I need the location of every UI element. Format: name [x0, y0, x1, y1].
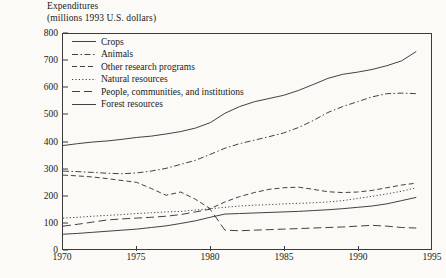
legend-label: Other research programs: [101, 62, 195, 72]
axis-title-line2: (millions 1993 U.S. dollars): [47, 13, 156, 23]
legend-line-icon: [72, 87, 96, 96]
legend-item: People, communities, and institutions: [72, 86, 244, 98]
legend-label: Forest resources: [101, 99, 163, 109]
legend-line-icon: [72, 100, 96, 109]
x-axis-labels: 197019751980198519901995: [62, 252, 432, 268]
legend-item: Animals: [72, 49, 244, 61]
y-tick-label: 700: [28, 55, 58, 65]
legend-label: Natural resources: [101, 74, 168, 84]
x-tick-label: 1970: [53, 252, 72, 262]
legend-item: Forest resources: [72, 99, 244, 111]
y-tick-label: 100: [28, 218, 58, 228]
legend-label: Crops: [101, 37, 124, 47]
chart-axis-title: Expenditures (millions 1993 U.S. dollars…: [47, 1, 156, 24]
x-tick-label: 1980: [201, 252, 220, 262]
y-tick-label: 500: [28, 109, 58, 119]
y-axis-labels: 0100200300400500600700800: [26, 33, 58, 250]
legend-label: Animals: [101, 49, 133, 59]
x-tick-mark: [358, 246, 359, 251]
x-tick-label: 1975: [127, 252, 146, 262]
x-tick-label: 1985: [275, 252, 294, 262]
legend-line-icon: [72, 62, 96, 71]
x-axis-ticks: [62, 244, 432, 251]
y-tick-label: 200: [28, 191, 58, 201]
legend-item: Natural resources: [72, 74, 244, 86]
chart-legend: CropsAnimalsOther research programsNatur…: [72, 36, 244, 110]
series-line: [63, 175, 416, 209]
series-line: [63, 209, 416, 231]
x-tick-mark: [136, 246, 137, 251]
legend-label: People, communities, and institutions: [101, 87, 244, 97]
axis-title-line1: Expenditures: [47, 1, 98, 11]
y-tick-label: 400: [28, 137, 58, 147]
y-tick-label: 600: [28, 82, 58, 92]
y-tick-label: 800: [28, 28, 58, 38]
legend-item: Crops: [72, 36, 244, 48]
x-tick-mark: [210, 246, 211, 251]
legend-line-icon: [72, 37, 96, 46]
legend-item: Other research programs: [72, 61, 244, 73]
legend-line-icon: [72, 75, 96, 84]
y-tick-label: 300: [28, 164, 58, 174]
series-line: [63, 197, 416, 234]
x-tick-label: 1990: [349, 252, 368, 262]
chart-page: Expenditures (millions 1993 U.S. dollars…: [0, 0, 446, 278]
x-tick-mark: [284, 246, 285, 251]
x-tick-label: 1995: [423, 252, 442, 262]
legend-line-icon: [72, 50, 96, 59]
